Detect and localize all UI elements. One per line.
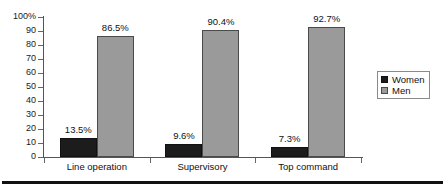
legend-item-men: Men bbox=[381, 85, 425, 96]
y-axis-label: 40 bbox=[0, 96, 36, 105]
x-axis-category-label: Top command bbox=[255, 161, 361, 172]
y-axis-label: 100% bbox=[0, 12, 36, 21]
bottom-divider bbox=[2, 181, 443, 184]
x-axis-category-label: Supervisory bbox=[150, 161, 256, 172]
x-axis-category-label: Line operation bbox=[44, 161, 150, 172]
bar-value-label: 90.4% bbox=[194, 17, 247, 27]
legend-label-women: Women bbox=[392, 75, 425, 85]
bar-men bbox=[97, 36, 134, 157]
x-axis-tick bbox=[361, 158, 362, 163]
legend-item-women: Women bbox=[381, 74, 425, 85]
y-axis-label: 70 bbox=[0, 54, 36, 63]
y-axis-label: 80 bbox=[0, 40, 36, 49]
y-axis-label: 0 bbox=[0, 152, 36, 161]
y-axis-label: 60 bbox=[0, 68, 36, 77]
y-axis-label: 20 bbox=[0, 124, 36, 133]
legend-label-men: Men bbox=[392, 86, 410, 96]
bar-men bbox=[202, 30, 239, 157]
men-swatch-icon bbox=[381, 87, 388, 94]
grouped-bar-chart: 0102030405060708090100% 13.5%86.5%9.6%90… bbox=[0, 0, 445, 193]
bar-group: 9.6%90.4% bbox=[150, 17, 256, 157]
bar-group: 7.3%92.7% bbox=[255, 17, 361, 157]
bar-women bbox=[271, 147, 308, 157]
y-axis-label: 30 bbox=[0, 110, 36, 119]
bar-women bbox=[60, 138, 97, 157]
y-axis-label: 90 bbox=[0, 26, 36, 35]
x-axis-line bbox=[43, 157, 363, 158]
bar-women bbox=[165, 144, 202, 157]
bar-value-label: 92.7% bbox=[300, 14, 353, 24]
bar-men bbox=[308, 27, 345, 157]
y-axis-label: 10 bbox=[0, 138, 36, 147]
chart-legend: Women Men bbox=[377, 71, 430, 99]
y-axis-label: 50 bbox=[0, 82, 36, 91]
bar-value-label: 86.5% bbox=[89, 23, 142, 33]
women-swatch-icon bbox=[381, 76, 388, 83]
bar-group: 13.5%86.5% bbox=[44, 17, 150, 157]
plot-area: 13.5%86.5%9.6%90.4%7.3%92.7% bbox=[44, 17, 361, 157]
